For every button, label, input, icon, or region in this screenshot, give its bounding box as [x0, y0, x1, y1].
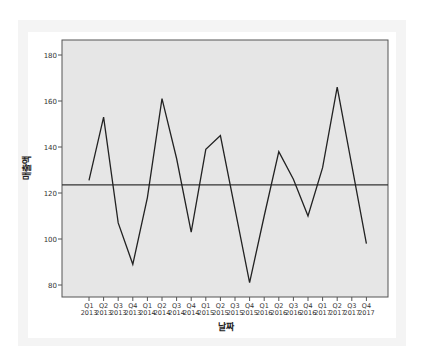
y-tick-label: 120 — [44, 190, 57, 198]
x-axis: Q12013Q22013Q32013Q42013Q12014Q22014Q320… — [81, 297, 375, 317]
x-axis-title: 날짜 — [218, 321, 235, 332]
y-tick-label: 160 — [44, 98, 57, 106]
y-tick-label: 180 — [44, 52, 57, 60]
y-tick-label: 140 — [44, 144, 57, 152]
y-axis-title: 매출액 — [21, 156, 32, 180]
y-tick-label: 80 — [48, 282, 57, 290]
line-chart: 80100120140160180 Q12013Q22013Q32013Q420… — [0, 0, 425, 363]
x-tick-label-year: 2017 — [358, 309, 375, 317]
y-axis: 80100120140160180 — [44, 52, 62, 290]
y-tick-label: 100 — [44, 236, 57, 244]
